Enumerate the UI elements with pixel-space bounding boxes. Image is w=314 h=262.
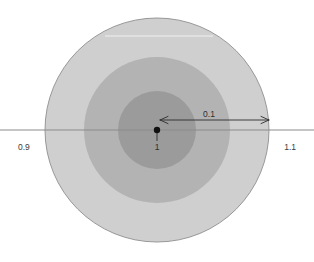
center-point-dot bbox=[154, 127, 160, 133]
axis-right-label: 1.1 bbox=[284, 142, 296, 152]
concentric-circles-figure: 0.1 1 0.9 1.1 bbox=[0, 0, 314, 262]
diagram-canvas: 0.1 1 0.9 1.1 bbox=[0, 0, 314, 262]
axis-left-label: 0.9 bbox=[18, 142, 30, 152]
center-point-label: 1 bbox=[155, 142, 160, 152]
measure-arrow-label: 0.1 bbox=[203, 109, 215, 119]
